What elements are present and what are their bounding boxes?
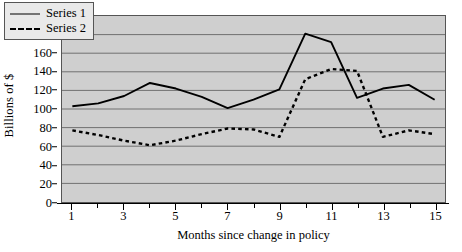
y-tick-label: 120 (33, 84, 52, 97)
plot-area (61, 15, 446, 203)
y-tick-label: 80 (40, 122, 53, 135)
x-tick-label: 1 (68, 210, 74, 223)
y-tick-label: 100 (33, 103, 52, 116)
x-axis-tick-labels: 13579111315 (0, 210, 462, 228)
plot-svg (62, 16, 445, 202)
x-tick-mark (306, 203, 307, 208)
y-tick-label: 160 (33, 46, 52, 59)
x-tick-label: 5 (172, 210, 178, 223)
y-tick-mark (52, 71, 57, 72)
legend-entry-series-1: Series 1 (10, 6, 86, 21)
y-tick-mark (52, 127, 57, 128)
y-axis-title-label: Billions of $ (3, 73, 18, 137)
x-tick-mark (254, 203, 255, 208)
series-line-2 (72, 69, 434, 145)
legend-line-dashed-icon (10, 24, 40, 33)
y-tick-label: 40 (40, 159, 53, 172)
legend-label-series-2: Series 2 (46, 21, 86, 36)
x-tick-mark (201, 203, 202, 208)
x-tick-label: 13 (377, 210, 390, 223)
chart-legend: Series 1 Series 2 (4, 2, 94, 40)
y-tick-label: 140 (33, 65, 52, 78)
legend-line-solid-icon (10, 9, 40, 18)
y-tick-label: 60 (40, 140, 53, 153)
legend-entry-series-2: Series 2 (10, 21, 86, 36)
y-tick-mark (52, 184, 57, 185)
line-chart: Billions of $ 02040608010012014016018020… (0, 0, 462, 252)
x-tick-mark (149, 203, 150, 208)
x-tick-mark (358, 203, 359, 208)
x-tick-label: 9 (276, 210, 282, 223)
y-tick-mark (52, 90, 57, 91)
x-tick-mark (410, 203, 411, 208)
x-tick-label: 11 (326, 210, 338, 223)
x-tick-label: 3 (120, 210, 126, 223)
x-tick-label: 7 (224, 210, 230, 223)
series-line-1 (72, 34, 434, 108)
legend-label-series-1: Series 1 (46, 6, 86, 21)
x-tick-mark (97, 203, 98, 208)
y-tick-label: 20 (40, 178, 53, 191)
y-tick-mark (52, 109, 57, 110)
y-tick-mark (52, 52, 57, 53)
y-tick-mark (52, 165, 57, 166)
x-axis-title: Months since change in policy (61, 228, 446, 243)
x-tick-label: 15 (429, 210, 442, 223)
y-tick-mark (52, 146, 57, 147)
